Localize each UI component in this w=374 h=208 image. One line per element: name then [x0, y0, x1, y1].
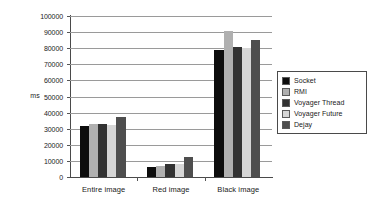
- legend-swatch-icon: [282, 77, 290, 85]
- bar: [80, 126, 89, 177]
- legend-item-label: Voyager Future: [294, 110, 343, 118]
- bar: [233, 47, 242, 177]
- bar: [98, 124, 107, 177]
- bar: [242, 48, 251, 177]
- bar: [224, 31, 233, 177]
- legend-item: Voyager Thread: [282, 97, 363, 108]
- y-axis-tick-label: 20000: [23, 141, 63, 148]
- bars-layer: [70, 16, 272, 177]
- legend-item-label: RMI: [294, 88, 307, 96]
- y-axis-tick-label: 30000: [23, 125, 63, 132]
- bar: [214, 50, 223, 177]
- y-axis-tick-label: 90000: [23, 29, 63, 36]
- legend-swatch-icon: [282, 99, 290, 107]
- bar: [165, 164, 174, 177]
- legend-item: Dejay: [282, 119, 363, 130]
- bar: [89, 124, 98, 177]
- y-axis-tick-labels: 0100002000030000400005000060000700008000…: [26, 13, 66, 179]
- plot-area: [70, 16, 272, 177]
- y-axis-tick-label: 60000: [23, 77, 63, 84]
- x-axis-category-labels: Entire imageRed imageBlack image: [70, 183, 273, 197]
- bar: [107, 125, 116, 177]
- bar-chart: ms 0100002000030000400005000060000700008…: [0, 0, 374, 208]
- x-axis-tick: [205, 177, 206, 181]
- bar: [156, 166, 165, 177]
- legend-swatch-icon: [282, 121, 290, 129]
- y-axis-tick: [67, 177, 70, 178]
- y-axis-tick-label: 0: [23, 174, 63, 181]
- bar: [116, 117, 125, 177]
- y-axis-tick-label: 50000: [23, 93, 63, 100]
- y-axis-tick-label: 100000: [23, 13, 63, 20]
- x-axis-category-label: Black image: [198, 185, 278, 194]
- y-axis-tick-label: 70000: [23, 61, 63, 68]
- legend: SocketRMIVoyager ThreadVoyager FutureDej…: [277, 71, 367, 134]
- x-axis-line: [70, 177, 273, 178]
- legend-item-label: Dejay: [294, 121, 312, 129]
- bar: [184, 157, 193, 177]
- legend-item-label: Voyager Thread: [294, 99, 344, 107]
- legend-item-label: Socket: [294, 77, 316, 85]
- bar: [147, 167, 156, 177]
- legend-swatch-icon: [282, 110, 290, 118]
- legend-item: RMI: [282, 86, 363, 97]
- x-axis-tick: [137, 177, 138, 181]
- legend-item: Socket: [282, 75, 363, 86]
- bar: [175, 164, 184, 177]
- legend-swatch-icon: [282, 88, 290, 96]
- y-axis-tick-label: 80000: [23, 45, 63, 52]
- y-axis-tick-label: 10000: [23, 157, 63, 164]
- y-axis-tick-label: 40000: [23, 109, 63, 116]
- bar: [251, 40, 260, 177]
- legend-item: Voyager Future: [282, 108, 363, 119]
